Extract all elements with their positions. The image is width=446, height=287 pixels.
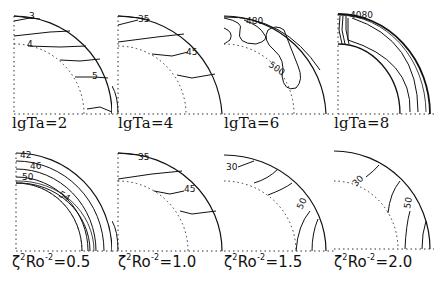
- panel-caption: lgTa=6: [224, 114, 280, 132]
- contour-label: 35: [138, 14, 149, 24]
- panel-lgta-8: 4080 lgTa=8: [334, 0, 446, 143]
- contour-label: 50: [295, 196, 309, 211]
- panel-zeta-ro-0-5: 42 46 50 54 ζ2Ro-2=0.5: [0, 143, 112, 286]
- panel-caption: ζ2Ro-2=1.5: [224, 253, 303, 271]
- panel-caption: lgTa=2: [12, 114, 68, 132]
- contour-label: 50: [22, 172, 34, 182]
- panel-caption: ζ2Ro-2=1.0: [118, 253, 197, 271]
- contour-label: 500: [267, 59, 287, 77]
- contour-label: 30: [226, 162, 238, 172]
- panel-lgta-6: 480 500 lgTa=6: [224, 0, 336, 143]
- contour-label: 35: [138, 152, 149, 162]
- panel-lgta-2: 3 4 5 lgTa=2: [0, 0, 112, 143]
- panel-caption: ζ2Ro-2=2.0: [334, 253, 413, 271]
- contour-label: 45: [184, 184, 195, 194]
- contour-label: 4080: [350, 10, 373, 20]
- panel-lgta-4: 35 45 lgTa=4: [112, 0, 224, 143]
- panel-caption: lgTa=4: [118, 114, 174, 132]
- contour-label: 30: [350, 173, 365, 188]
- contour-label: 4: [27, 39, 33, 49]
- panel-zeta-ro-2-0: 30 50 ζ2Ro-2=2.0: [334, 143, 446, 286]
- contour-label: 45: [186, 47, 197, 57]
- panel-zeta-ro-1-5: 30 50 ζ2Ro-2=1.5: [224, 143, 336, 286]
- contour-label: 3: [29, 11, 35, 21]
- panel-zeta-ro-1-0: 35 45 ζ2Ro-2=1.0: [112, 143, 224, 286]
- panel-caption: ζ2Ro-2=0.5: [12, 253, 91, 271]
- contour-label: 42: [20, 150, 31, 160]
- contour-label: 480: [246, 16, 263, 26]
- panel-caption: lgTa=8: [334, 114, 390, 132]
- contour-label: 50: [402, 196, 414, 209]
- contour-label: 46: [30, 161, 42, 171]
- contour-label: 5: [92, 71, 98, 81]
